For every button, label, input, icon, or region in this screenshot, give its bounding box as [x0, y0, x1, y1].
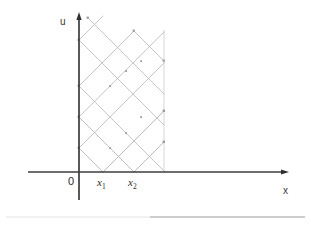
characteristic-lines-from-axis: [79, 111, 164, 172]
tick-label-x1-subscript: 1: [102, 182, 106, 191]
figure-root: u x 0 x1 x2: [0, 0, 311, 230]
origin-label: 0: [68, 176, 74, 187]
tick-label-x2: x2: [128, 177, 137, 191]
tick-label-x2-subscript: 2: [133, 182, 137, 191]
characteristic-lines-left-going: [79, 16, 164, 172]
characteristic-net-diagram: [0, 0, 311, 230]
u-axis-label: u: [60, 17, 66, 27]
tick-label-x1: x1: [97, 177, 106, 191]
x-axis-label: x: [283, 186, 288, 196]
characteristic-lines-right-going: [79, 18, 164, 172]
x-axis: [28, 169, 289, 174]
